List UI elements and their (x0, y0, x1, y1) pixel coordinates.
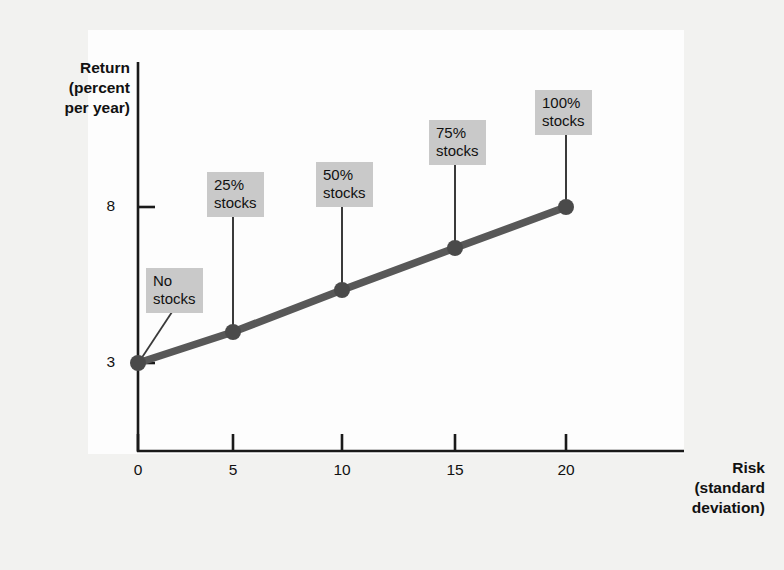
x-tick-label-0: 0 (118, 461, 158, 479)
x-tick-label-20: 20 (546, 461, 586, 479)
data-point-0 (130, 355, 146, 371)
y-tick-label-3: 3 (75, 353, 115, 371)
chart-figure: Return (percent per year) Risk (standard… (0, 0, 784, 570)
x-axis-title: Risk (standard deviation) (560, 458, 765, 517)
data-point-75 (447, 240, 463, 256)
y-tick-label-8: 8 (75, 197, 115, 215)
x-tick-label-10: 10 (322, 461, 362, 479)
callout-no-stocks: No stocks (146, 268, 203, 313)
x-tick-label-5: 5 (213, 461, 253, 479)
callout-25-stocks: 25% stocks (207, 172, 264, 217)
x-tick-label-15: 15 (435, 461, 475, 479)
data-point-100 (558, 199, 574, 215)
callout-75-stocks: 75% stocks (429, 120, 486, 165)
data-point-50 (334, 282, 350, 298)
y-axis-title: Return (percent per year) (0, 58, 130, 117)
data-point-25 (225, 324, 241, 340)
callout-100-stocks: 100% stocks (535, 90, 592, 135)
callout-50-stocks: 50% stocks (316, 162, 373, 207)
